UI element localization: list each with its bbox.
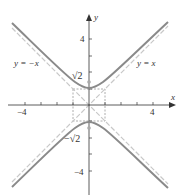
focus-lower — [87, 126, 91, 130]
focus-label-sqrt2: √2 — [72, 70, 83, 81]
y-tick-4: 4 — [80, 34, 85, 44]
y-axis: y 4 −4 — [74, 12, 98, 195]
y-tick-neg4: −4 — [74, 167, 84, 177]
asymptote-label-neg-x: y = −x — [13, 58, 39, 68]
x-tick-neg4: −4 — [17, 107, 27, 117]
x-axis-arrow-icon — [169, 102, 176, 108]
hyperbola-diagram: x −4 4 y 4 −4 √2 −√2 y = −x y = x — [0, 0, 182, 195]
y-axis-arrow-icon — [86, 14, 92, 21]
focus-upper — [87, 80, 91, 84]
y-axis-label: y — [93, 12, 98, 22]
asymptote-label-x: y = x — [136, 58, 156, 68]
asymptote-y-equals-neg-x — [12, 28, 168, 184]
hyperbola-lower-branch — [12, 122, 168, 188]
x-axis-label: x — [170, 92, 175, 102]
asymptote-y-equals-x — [12, 26, 168, 182]
x-tick-4: 4 — [150, 107, 155, 117]
focus-label-neg-sqrt2: −√2 — [64, 133, 80, 144]
x-axis: x −4 4 — [8, 92, 176, 117]
hyperbola-upper-branch — [12, 22, 168, 88]
